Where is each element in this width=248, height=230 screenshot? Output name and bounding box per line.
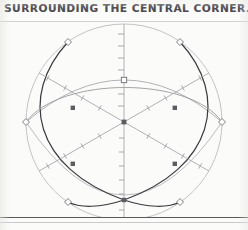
- node-bottom-crossing-marker: [122, 198, 126, 202]
- arc-dark-right-lower: [68, 200, 124, 206]
- node-upper-right-marker: [173, 106, 177, 110]
- rule-bottom-primary: [0, 217, 248, 218]
- node-lower-left-marker: [71, 162, 75, 166]
- figure-page: SURROUNDING THE CENTRAL CORNER.: [0, 0, 248, 230]
- geometric-figure: [0, 18, 248, 218]
- node-markers: [121, 77, 126, 82]
- caption-block: SURROUNDING THE CENTRAL CORNER.: [0, 0, 248, 20]
- node-lower-right-marker: [173, 162, 177, 166]
- node-apex-marker: [121, 77, 126, 82]
- node-upper-left-marker: [71, 106, 75, 110]
- arc-dark-right-upper: [124, 42, 208, 200]
- node-center-marker: [122, 120, 127, 125]
- rule-bottom-secondary: [0, 222, 248, 223]
- figure-caption: SURROUNDING THE CENTRAL CORNER.: [4, 1, 248, 14]
- arc-dark-left-lower: [124, 200, 180, 206]
